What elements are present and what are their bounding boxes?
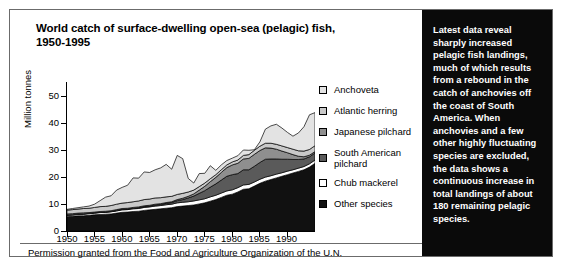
chart-panel: World catch of surface-dwelling open-sea…: [10, 10, 422, 256]
legend-item-anchoveta[interactable]: Anchoveta: [319, 84, 429, 96]
y-axis-tick: [61, 231, 66, 232]
y-axis-tick-label: 30: [33, 145, 59, 154]
legend-swatch-anchoveta: [319, 86, 327, 94]
legend-item-japanese-pilchard[interactable]: Japanese pilchard: [319, 126, 429, 138]
legend-label-atlantic-herring: Atlantic herring: [334, 105, 429, 116]
y-axis-tick-label: 10: [33, 199, 59, 208]
legend-swatch-other-species: [319, 200, 327, 208]
source-caption: Permission granted from the Food and Agr…: [28, 247, 342, 258]
legend-item-chub-mackerel[interactable]: Chub mackerel: [319, 177, 429, 189]
y-axis-tick: [61, 177, 66, 178]
note-panel: Latest data reveal sharply increased pel…: [422, 10, 552, 256]
y-axis-tick: [61, 123, 66, 124]
legend-swatch-atlantic-herring: [319, 107, 327, 115]
figure-root: World catch of surface-dwelling open-sea…: [0, 0, 562, 276]
y-axis-label: Million tonnes: [22, 70, 33, 128]
y-axis-tick-label: 20: [33, 172, 59, 181]
y-axis-tick: [61, 204, 66, 205]
y-axis-tick: [61, 96, 66, 97]
note-panel-text: Latest data reveal sharply increased pel…: [433, 24, 545, 226]
legend-item-south-american-pilchard[interactable]: South American pilchard: [319, 147, 429, 169]
legend-swatch-south-american-pilchard: [319, 154, 327, 162]
plot-area: 0102030405019501955196019651970197519801…: [66, 82, 315, 232]
legend-swatch-japanese-pilchard: [319, 128, 327, 136]
y-axis-tick: [61, 150, 66, 151]
legend-swatch-chub-mackerel: [319, 179, 327, 187]
legend-label-chub-mackerel: Chub mackerel: [334, 177, 429, 188]
legend-label-anchoveta: Anchoveta: [334, 84, 429, 95]
y-axis-tick-label: 40: [33, 118, 59, 127]
chart-title: World catch of surface-dwelling open-sea…: [36, 21, 336, 49]
legend-label-japanese-pilchard: Japanese pilchard: [334, 126, 429, 137]
legend-item-atlantic-herring[interactable]: Atlantic herring: [319, 105, 429, 117]
legend: Anchoveta Atlantic herring Japanese pilc…: [319, 84, 429, 219]
legend-item-other-species[interactable]: Other species: [319, 198, 429, 210]
legend-label-other-species: Other species: [334, 198, 429, 209]
legend-label-south-american-pilchard: South American pilchard: [334, 147, 429, 169]
area-chart-svg: [67, 82, 315, 231]
y-axis-tick-label: 50: [33, 91, 59, 100]
stacked-area-series: [67, 82, 315, 231]
caption-divider: [20, 243, 432, 244]
